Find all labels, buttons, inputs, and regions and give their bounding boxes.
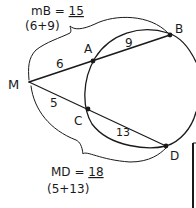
annotation-md-sum: (5+13) [47,182,89,196]
annotation-md: MD = 18 [51,165,104,179]
segment-ab-length: 9 [125,36,133,50]
secant-diagram: M A B C D 6 9 5 13 mB = 15 (6+9) MD = 18… [0,0,196,208]
annotation-mb: mB = 15 [31,4,84,18]
point-a [91,59,96,64]
point-c [86,107,91,112]
segment-ma-length: 6 [56,57,64,71]
secant-md [29,82,166,146]
label-b: B [175,22,183,36]
label-d: D [170,149,179,163]
circle-arc [85,30,196,148]
segment-mc-length: 5 [50,96,58,110]
annotation-mb-sum: (6+9) [25,19,60,33]
label-c: C [74,114,82,128]
point-d [164,144,169,149]
segment-cd-length: 13 [116,126,130,139]
label-m: M [8,77,19,92]
point-b [168,33,173,38]
label-a: A [84,42,93,56]
